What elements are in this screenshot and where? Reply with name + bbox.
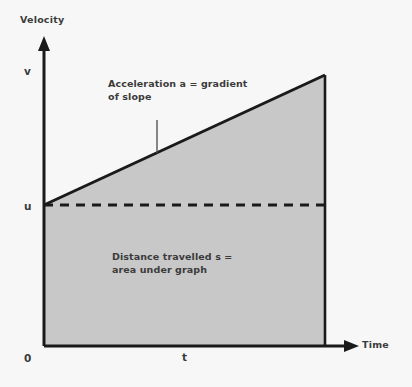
origin-label: 0 xyxy=(24,351,31,365)
y-axis-tick-initial-velocity: u xyxy=(24,199,31,213)
acceleration-annotation: Acceleration a = gradient of slope xyxy=(108,78,247,104)
y-axis-title: Velocity xyxy=(20,14,64,27)
y-axis-arrow-icon xyxy=(38,36,50,51)
y-axis-tick-final-velocity: v xyxy=(24,64,31,78)
graph-canvas xyxy=(0,0,412,387)
area-under-graph xyxy=(44,75,325,346)
x-axis-arrow-icon xyxy=(344,340,359,352)
x-axis-title: Time xyxy=(362,339,389,352)
velocity-time-graph: Velocity v u 0 t Time Acceleration a = g… xyxy=(0,0,412,387)
x-axis-tick-time: t xyxy=(182,350,187,364)
distance-annotation: Distance travelled s = area under graph xyxy=(112,251,232,277)
